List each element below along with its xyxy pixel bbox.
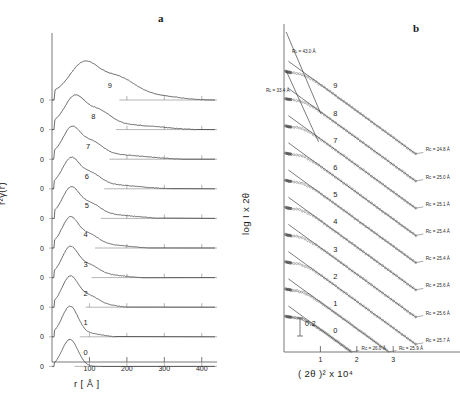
panel-b-curve-label: 0 xyxy=(333,326,337,335)
panel-b-fit-line xyxy=(288,170,415,263)
panel-b-data-point xyxy=(293,262,295,264)
panel-b-data-point xyxy=(305,293,307,295)
panel-a-curve-label: 4 xyxy=(83,230,87,239)
panel-b-rl-annotation: Rʟ = 43.0 Å xyxy=(292,48,317,54)
panel-b-curve-label: 9 xyxy=(333,81,337,90)
panel-b-data-point xyxy=(296,154,298,156)
panel-b-data-point xyxy=(301,210,303,212)
panel-b-rc-annotation: Rᴄ = 25.1 Å xyxy=(426,201,451,207)
panel-a-curve-label: 1 xyxy=(83,318,87,327)
panel-b-data-point xyxy=(293,126,295,128)
panel-b-data-point xyxy=(304,129,306,131)
panel-b-data-point xyxy=(298,127,300,129)
panel-b-fit-line xyxy=(288,252,415,345)
panel-b-data-point xyxy=(301,74,303,76)
panel-b-fit-line xyxy=(288,143,415,236)
panel-a-zero-label: 0 xyxy=(40,185,44,192)
panel-b-data-point xyxy=(303,291,305,293)
panel-a-curve xyxy=(52,187,215,219)
panel-b-data-point xyxy=(293,208,295,210)
panel-b-data-point xyxy=(307,293,309,295)
panel-b-data-point xyxy=(301,237,303,239)
panel-b-data-point xyxy=(304,238,306,240)
panel-b-rc-annotation: Rᴄ = 25.6 Å xyxy=(426,310,451,316)
panel-b-x-tick-label: 2 xyxy=(355,356,359,363)
panel-b-data-point xyxy=(294,290,296,292)
panel-b-rc-annotation: Rᴄ = 25.4 Å xyxy=(426,228,451,234)
panel-a-curve xyxy=(52,217,215,249)
panel-a-zero-label: 0 xyxy=(40,245,44,252)
panel-b-data-point xyxy=(296,72,298,74)
panel-b-curve-label: 7 xyxy=(333,136,337,145)
panel-a-curve-label: 0 xyxy=(83,348,87,357)
panel-a-zero-label: 0 xyxy=(40,333,44,340)
panel-b-data-point xyxy=(301,101,303,103)
panel-b-data-point xyxy=(293,72,295,74)
panel-a-curve-label: 2 xyxy=(83,289,87,298)
panel-b-rc-annotation: Rᴄ = 24.8 Å xyxy=(426,146,451,152)
panel-b-data-point xyxy=(298,208,300,210)
panel-b-data-point xyxy=(301,264,303,266)
panel-b-data-point xyxy=(293,235,295,237)
panel-b-fit-line xyxy=(288,224,415,317)
panel-b-x-tick-label: 3 xyxy=(391,356,395,363)
panel-b-rc-annotation: Rᴄ = 25.9 Å xyxy=(399,345,424,351)
panel-b-data-point xyxy=(296,181,298,183)
panel-b-curve-label: 4 xyxy=(333,217,337,226)
panel-b-rc-annotation: Rᴄ = 25.6 Å xyxy=(426,282,451,288)
panel-b-fit-line xyxy=(288,306,351,352)
panel-b-data-point xyxy=(307,266,309,268)
panel-b-data-point xyxy=(301,155,303,157)
panel-b-curve-label: 8 xyxy=(333,109,337,118)
panel-a-curve xyxy=(52,276,215,308)
panel-b-data-point xyxy=(309,159,311,161)
panel-b-fit-line xyxy=(288,197,415,290)
panel-b-data-point xyxy=(296,100,298,102)
panel-a-curve-label: 5 xyxy=(85,201,89,210)
panel-b-fit-line xyxy=(288,61,415,154)
panel-b-rc-annotation: Rᴄ = 25.4 Å xyxy=(426,255,451,261)
panel-b-curve-label: 6 xyxy=(333,163,337,172)
panel-a: a r²γ(r) r [ Å ] 10020030040000010203040… xyxy=(0,0,230,403)
panel-b-rl-annotation: Rʟ = 33.4 Å xyxy=(266,87,291,93)
panel-b-data-point xyxy=(309,241,311,243)
panel-a-curve-label: 7 xyxy=(86,142,90,151)
panel-b-fit-line xyxy=(288,88,415,181)
panel-a-zero-label: 0 xyxy=(40,126,44,133)
panel-b-data-point xyxy=(296,208,298,210)
panel-b-data-point xyxy=(301,182,303,184)
panel-a-curve xyxy=(52,246,215,278)
panel-b-plot: 1230Rᴄ = 26.0 Å1Rᴄ = 25.9 Å2Rᴄ = 25.7 Å3… xyxy=(230,0,460,403)
panel-a-curve xyxy=(52,126,215,159)
panel-b-data-point xyxy=(298,291,300,293)
panel-a-zero-label: 0 xyxy=(40,363,44,370)
panel-b-data-point xyxy=(293,99,295,101)
panel-b-data-point xyxy=(300,291,302,293)
panel-b-curve-label: 3 xyxy=(333,245,337,254)
panel-b-x-tick-label: 1 xyxy=(318,356,322,363)
panel-b-data-point xyxy=(296,126,298,128)
panel-b-data-point xyxy=(293,154,295,156)
panel-b-data-point xyxy=(296,290,298,292)
panel-b-data-point xyxy=(301,128,303,130)
panel-a-zero-label: 0 xyxy=(40,274,44,281)
panel-b-rc-annotation: Rᴄ = 25.0 Å xyxy=(426,174,451,180)
panel-a-curve xyxy=(52,306,215,337)
panel-b-curve-label: 2 xyxy=(333,272,337,281)
panel-b-data-point xyxy=(298,73,300,75)
panel-a-curve-label: 3 xyxy=(83,260,87,269)
panel-b-data-point xyxy=(309,105,311,107)
panel-a-curve xyxy=(52,61,215,100)
figure-root: a r²γ(r) r [ Å ] 10020030040000010203040… xyxy=(0,0,460,403)
panel-a-plot: 10020030040000010203040506070809 xyxy=(0,0,230,403)
panel-b-data-point xyxy=(307,239,309,241)
panel-b-data-point xyxy=(307,158,309,160)
panel-b-data-point xyxy=(304,102,306,104)
panel-b-data-point xyxy=(298,236,300,238)
panel-a-curve-label: 6 xyxy=(85,172,89,181)
panel-b-curve-label: 1 xyxy=(333,299,337,308)
panel-b-data-point xyxy=(309,78,311,80)
panel-a-curve-label: 9 xyxy=(108,81,112,90)
panel-b-data-point xyxy=(307,212,309,214)
panel-a-curve-label: 8 xyxy=(91,112,95,121)
